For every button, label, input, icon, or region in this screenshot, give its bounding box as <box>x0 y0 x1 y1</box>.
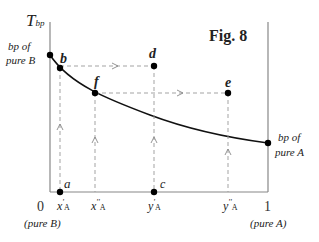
point-d <box>151 63 157 69</box>
right-bp-label-1: bp of <box>278 132 300 143</box>
left-bp-label-2: pure B <box>6 55 35 66</box>
label-e: e <box>225 76 231 90</box>
point-e <box>225 90 231 96</box>
point-f <box>92 90 98 96</box>
left-bp-label-1: bp of <box>8 41 30 52</box>
pure-a-caption: (pure A) <box>250 218 286 229</box>
x-tick-1: 1 <box>264 199 271 215</box>
data-points <box>47 52 271 195</box>
label-a: a <box>64 177 71 190</box>
horizontal-arrows <box>112 63 183 96</box>
x-tick-xA-dprime: x''A <box>91 199 106 212</box>
point-bp-b <box>47 52 53 58</box>
point-a <box>57 189 63 195</box>
point-c <box>151 189 157 195</box>
label-f: f <box>94 75 99 89</box>
x-tick-0: 0 <box>37 199 44 215</box>
right-bp-label-2: pure A <box>275 147 304 158</box>
x-tick-xA-prime: x'A <box>57 199 70 212</box>
dashed-guides <box>60 66 228 192</box>
label-c: c <box>160 178 165 190</box>
label-b: b <box>60 52 67 66</box>
x-tick-yA-dprime: y''A <box>223 199 238 212</box>
label-d: d <box>149 47 156 61</box>
vertical-arrows <box>57 124 231 155</box>
figure-title: Fig. 8 <box>209 27 247 45</box>
boiling-point-curve <box>50 55 268 143</box>
point-bp-a <box>265 140 271 146</box>
x-tick-yA-prime: y'A <box>148 199 161 212</box>
y-axis-label: Tbp <box>26 12 44 29</box>
pure-b-caption: (pure B) <box>24 218 61 229</box>
